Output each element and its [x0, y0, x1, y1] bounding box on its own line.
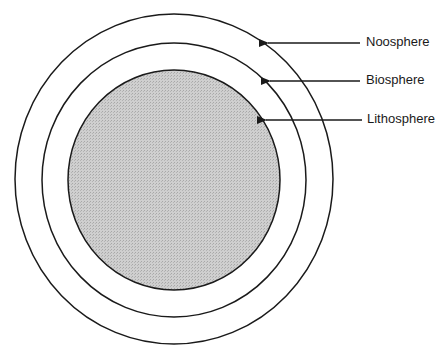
biosphere-label: Biosphere [366, 72, 425, 87]
noosphere-label: Noosphere [366, 34, 430, 49]
lithosphere-core [68, 70, 280, 290]
spheres-diagram [0, 0, 438, 355]
lithosphere-label: Lithosphere [367, 111, 435, 126]
